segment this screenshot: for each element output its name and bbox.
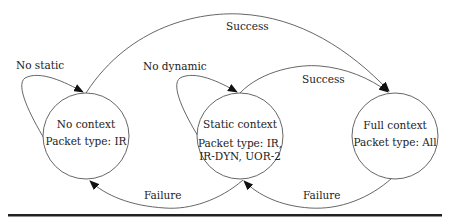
state-packet: Packet type: IR, [198,137,282,149]
state-title: Static context [203,118,278,130]
label-success-top: Success [226,20,269,32]
state-diagram: Success Success No static No dynamic Fai… [0,0,450,222]
state-full-context: Full context Packet type: All [352,93,438,179]
label-no-static: No static [16,59,64,71]
state-no-context: No context Packet type: IR [43,93,129,179]
state-title: Full context [363,119,427,131]
label-failure-left: Failure [144,189,182,201]
label-no-dynamic: No dynamic [143,60,207,72]
state-packet: Packet type: All [353,136,437,148]
state-static-context: Static context Packet type: IR, IR-DYN, … [197,93,283,179]
state-packet: Packet type: IR [46,135,128,147]
bottom-rule [8,214,442,217]
state-packet-line2: IR-DYN, UOR-2 [199,150,281,162]
label-success-lower: Success [302,73,345,85]
state-title: No context [57,118,116,130]
label-failure-right: Failure [303,189,341,201]
